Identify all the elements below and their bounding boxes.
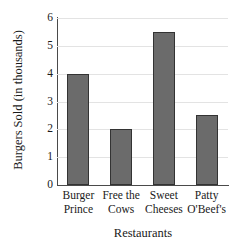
x-tick-label-line: Burger <box>57 188 100 202</box>
y-tick-label: 5 <box>39 40 53 52</box>
y-tick-label: 4 <box>39 68 53 80</box>
x-tick-label-line: Free the <box>100 188 143 202</box>
x-tick-label: SweetCheeses <box>143 188 186 216</box>
x-tick-label: PattyO'Beef's <box>185 188 228 216</box>
x-tick-label-line: O'Beef's <box>185 202 228 216</box>
x-tick-label-line: Cheeses <box>143 202 186 216</box>
y-tick-label: 2 <box>39 123 53 135</box>
x-tick-label-line: Sweet <box>143 188 186 202</box>
x-tick-label: BurgerPrince <box>57 188 100 216</box>
x-axis-tick-labels: BurgerPrinceFree theCowsSweetCheesesPatt… <box>57 188 229 222</box>
y-tick-label: 0 <box>39 179 53 191</box>
x-tick-label-line: Patty <box>185 188 228 202</box>
x-tick-label-line: Prince <box>57 202 100 216</box>
y-axis-tick-labels: 6543210 <box>38 18 53 185</box>
gridline <box>57 18 228 19</box>
bar <box>110 129 132 185</box>
bar <box>67 74 89 185</box>
y-tick-label: 6 <box>39 12 53 24</box>
x-axis-line <box>57 185 229 186</box>
bar-chart: Burgers Sold (in thousands) 6543210 Burg… <box>0 0 244 251</box>
bar <box>196 115 218 185</box>
y-axis-title: Burgers Sold (in thousands) <box>6 5 30 195</box>
y-tick-label: 3 <box>39 96 53 108</box>
x-tick-label: Free theCows <box>100 188 143 216</box>
bar <box>153 32 175 185</box>
plot-area <box>57 18 228 185</box>
x-tick-label-line: Cows <box>100 202 143 216</box>
x-axis-title: Restaurants <box>57 226 229 241</box>
y-tick-label: 1 <box>39 151 53 163</box>
gridline <box>57 46 228 47</box>
